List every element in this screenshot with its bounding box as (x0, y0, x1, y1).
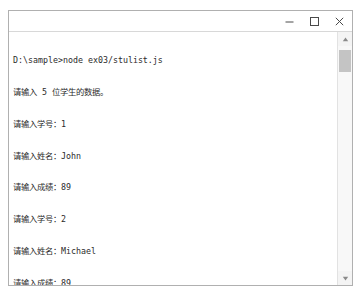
console-line: 请输入学号：2 (13, 214, 337, 225)
scrollbar-thumb[interactable] (339, 50, 351, 72)
console-line: 请输入 5 位学生的数据。 (13, 87, 337, 98)
close-button[interactable] (327, 12, 352, 31)
scroll-down-icon[interactable] (338, 271, 352, 285)
console-line: 请输入姓名：Michael (13, 246, 337, 257)
console-output[interactable]: D:\sample>node ex03/stulist.js 请输入 5 位学生… (9, 32, 337, 285)
minimize-button[interactable] (277, 12, 302, 31)
console-line: D:\sample>node ex03/stulist.js (13, 55, 337, 66)
vertical-scrollbar[interactable] (337, 32, 352, 285)
console-line: 请输入姓名：John (13, 151, 337, 162)
console-window: D:\sample>node ex03/stulist.js 请输入 5 位学生… (8, 10, 353, 286)
console-line: 请输入成绩：89 (13, 182, 337, 193)
console-line: 请输入学号：1 (13, 119, 337, 130)
maximize-button[interactable] (302, 12, 327, 31)
window-body: D:\sample>node ex03/stulist.js 请输入 5 位学生… (9, 32, 352, 285)
scrollbar-track[interactable] (338, 46, 352, 271)
console-line: 请输入成绩：89 (13, 278, 337, 285)
scroll-up-icon[interactable] (338, 32, 352, 46)
title-bar[interactable] (9, 11, 352, 32)
